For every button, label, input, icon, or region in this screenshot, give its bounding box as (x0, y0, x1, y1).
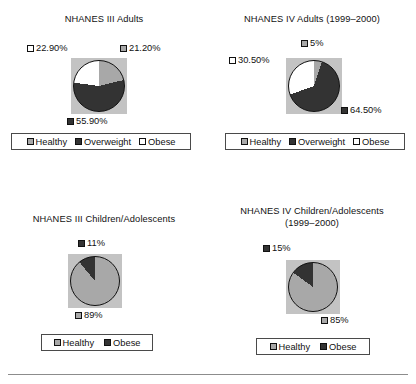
chart-panel-adults-iv: NHANES IV Adults (1999–2000) 5% 30.50% 6… (208, 0, 416, 192)
swatch-overweight-icon (67, 118, 74, 125)
legend-adults-iv: Healthy Overweight Obese (225, 133, 405, 150)
data-label-healthy-adults-iii: 21.20% (120, 43, 161, 53)
chart-title-adults-iii: NHANES III Adults (0, 14, 208, 26)
legend-label-obese: Obese (362, 137, 389, 147)
legend-label-overweight: Overweight (298, 137, 345, 147)
chart-panel-children-iii: NHANES III Children/Adolescents 11% 89% … (0, 192, 208, 384)
pie-plot-area-adults-iv (286, 58, 342, 114)
pie-adults-iii (73, 60, 125, 112)
legend-item-healthy[interactable]: Healthy (27, 137, 68, 147)
legend-item-obese[interactable]: Obese (104, 338, 140, 348)
legend-item-obese[interactable]: Obese (353, 137, 389, 147)
chart-title-children-iv-line1: NHANES IV Children/Adolescents (208, 206, 416, 218)
legend-item-healthy[interactable]: Healthy (270, 342, 311, 352)
legend-item-obese[interactable]: Obese (320, 342, 356, 352)
pie-children-iii (70, 256, 120, 306)
data-label-overweight-adults-iii: 55.90% (67, 116, 108, 126)
legend-adults-iii: Healthy Overweight Obese (11, 133, 191, 150)
charts-grid: NHANES III Adults 22.90% 21.20% 55.90% H… (0, 0, 416, 370)
data-label-obese-adults-iv: 30.50% (229, 55, 270, 65)
data-label-healthy-children-iv: 85% (321, 315, 349, 325)
data-label-healthy-text: 5% (310, 38, 323, 48)
data-label-obese-children-iii: 11% (78, 238, 105, 248)
legend-swatch-overweight-icon (75, 138, 82, 145)
chart-title-children-iii: NHANES III Children/Adolescents (0, 214, 208, 226)
chart-panel-adults-iii: NHANES III Adults 22.90% 21.20% 55.90% H… (0, 0, 208, 192)
data-label-overweight-text: 55.90% (76, 116, 108, 126)
data-label-healthy-adults-iv: 5% (301, 38, 323, 48)
legend-item-overweight[interactable]: Overweight (75, 137, 131, 147)
data-label-healthy-text: 21.20% (129, 43, 161, 53)
pie-adults-iv (288, 60, 340, 112)
swatch-healthy-icon (120, 45, 127, 52)
legend-item-healthy[interactable]: Healthy (241, 137, 282, 147)
legend-children-iv: Healthy Obese (256, 338, 370, 355)
swatch-healthy-icon (321, 317, 328, 324)
legend-item-obese[interactable]: Obese (139, 137, 175, 147)
swatch-obese-icon (78, 240, 85, 247)
legend-item-overweight[interactable]: Overweight (289, 137, 345, 147)
legend-swatch-healthy-icon (27, 138, 34, 145)
legend-label-healthy: Healthy (36, 137, 68, 147)
legend-label-overweight: Overweight (84, 137, 131, 147)
data-label-healthy-text: 89% (84, 310, 103, 320)
swatch-healthy-icon (75, 312, 82, 319)
legend-swatch-healthy-icon (54, 339, 61, 346)
data-label-obese-text: 30.50% (238, 55, 270, 65)
legend-swatch-healthy-icon (270, 343, 277, 350)
data-label-healthy-children-iii: 89% (75, 310, 103, 320)
legend-label-obese: Obese (148, 137, 175, 147)
legend-swatch-obese-icon (320, 343, 327, 350)
legend-children-iii: Healthy Obese (41, 334, 153, 351)
legend-label-healthy: Healthy (279, 342, 311, 352)
data-label-healthy-text: 85% (330, 315, 349, 325)
bottom-divider (8, 374, 408, 375)
swatch-healthy-icon (301, 40, 308, 47)
data-label-obese-text: 15% (272, 243, 291, 253)
legend-swatch-obese-icon (104, 339, 111, 346)
legend-label-healthy: Healthy (63, 338, 95, 348)
chart-title-children-iv-line2: (1999–2000) (208, 218, 416, 230)
legend-item-healthy[interactable]: Healthy (54, 338, 95, 348)
data-label-obese-adults-iii: 22.90% (27, 43, 68, 53)
pie-children-iv (288, 262, 338, 312)
swatch-obese-icon (263, 245, 270, 252)
chart-panel-children-iv: NHANES IV Children/Adolescents (1999–200… (208, 192, 416, 384)
pie-plot-area-adults-iii (71, 58, 127, 114)
legend-swatch-healthy-icon (241, 138, 248, 145)
legend-label-obese: Obese (329, 342, 356, 352)
pie-plot-area-children-iv (286, 260, 340, 314)
pie-plot-area-children-iii (68, 254, 122, 308)
legend-label-healthy: Healthy (250, 137, 282, 147)
legend-label-obese: Obese (113, 338, 140, 348)
data-label-overweight-adults-iv: 64.50% (341, 105, 382, 115)
data-label-obese-text: 22.90% (36, 43, 68, 53)
swatch-overweight-icon (341, 107, 348, 114)
legend-swatch-obese-icon (139, 138, 146, 145)
legend-swatch-overweight-icon (289, 138, 296, 145)
data-label-obese-children-iv: 15% (263, 243, 291, 253)
swatch-obese-icon (229, 57, 236, 64)
swatch-obese-icon (27, 45, 34, 52)
legend-swatch-obese-icon (353, 138, 360, 145)
chart-title-adults-iv: NHANES IV Adults (1999–2000) (208, 14, 416, 26)
data-label-overweight-text: 64.50% (350, 105, 382, 115)
data-label-obese-text: 11% (87, 238, 105, 248)
